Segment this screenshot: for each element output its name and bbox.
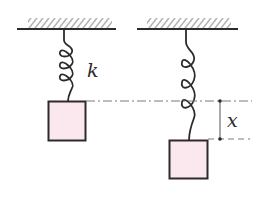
left-ceiling	[17, 18, 116, 29]
right-mass-block	[170, 141, 208, 179]
spring-mass-diagram	[0, 0, 266, 200]
spring-constant-label: k	[87, 61, 99, 80]
dimension-bottom-dot	[218, 137, 222, 141]
displacement-dimension	[218, 99, 222, 141]
dimension-top-dot	[218, 99, 222, 103]
right-spring	[182, 29, 195, 140]
left-ceiling-hatching	[28, 18, 112, 28]
right-ceiling-hatching	[147, 18, 231, 28]
left-spring	[60, 29, 73, 101]
left-mass-block	[49, 102, 86, 141]
right-ceiling	[137, 18, 238, 29]
displacement-label: x	[227, 111, 238, 130]
